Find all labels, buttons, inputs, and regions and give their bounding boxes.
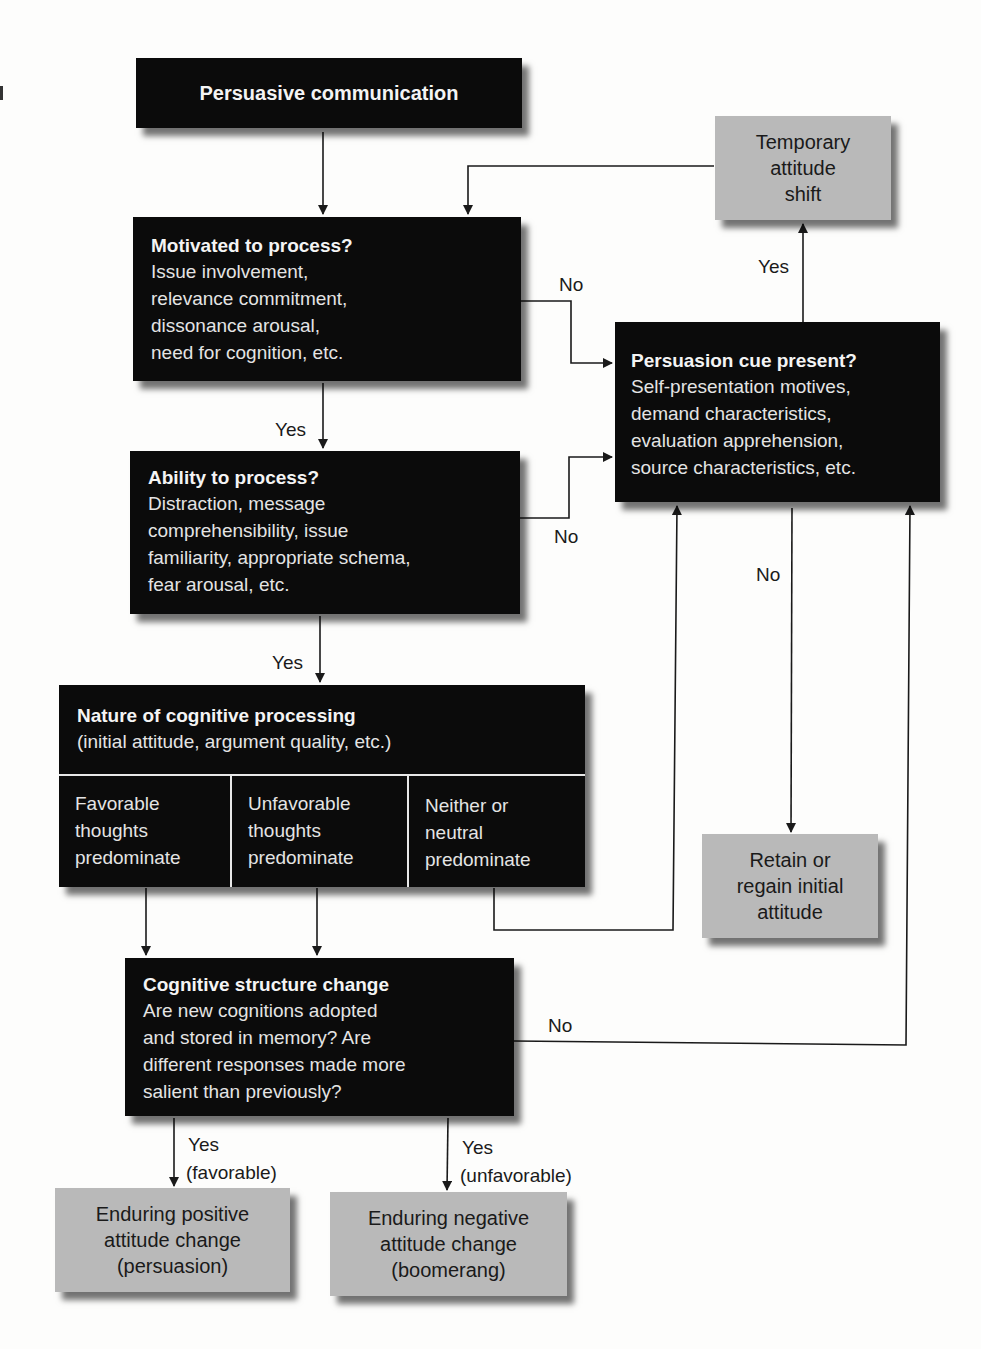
node-subtitle: (initial attitude, argument quality, etc… <box>77 728 391 755</box>
cell-text-line: Neither or <box>425 792 571 819</box>
node-text-line: need for cognition, etc. <box>151 339 521 366</box>
edge-label-change-yes-unfavorable: Yes <box>462 1137 493 1159</box>
node-text-line: fear arousal, etc. <box>148 571 520 598</box>
edge-label-ability-no: No <box>554 526 578 548</box>
cell-text-line: thoughts <box>75 817 217 844</box>
cell-neither: Neither or neutral predominate <box>409 776 585 887</box>
arrow-cue-no <box>791 508 792 832</box>
edge-label-change-no: No <box>548 1015 572 1037</box>
cell-favorable: Favorable thoughts predominate <box>59 776 231 887</box>
cell-text-line: predominate <box>75 844 217 871</box>
node-title: Persuasive communication <box>200 81 459 106</box>
arrow-motivated-no <box>520 301 612 363</box>
node-persuasion-cue-present: Persuasion cue present? Self-presentatio… <box>615 322 940 502</box>
node-text-line: attitude <box>770 155 836 181</box>
node-text-line: Issue involvement, <box>151 258 521 285</box>
node-title: Cognitive structure change <box>143 972 514 997</box>
node-text-line: dissonance arousal, <box>151 312 521 339</box>
node-text-line: Retain or <box>749 847 830 873</box>
edge-label-ability-yes: Yes <box>272 652 303 674</box>
node-nature-of-processing: Nature of cognitive processing (initial … <box>59 685 585 887</box>
node-text-line: comprehensibility, issue <box>148 517 520 544</box>
cell-text-line: Unfavorable <box>248 790 394 817</box>
node-text-line: and stored in memory? Are <box>143 1024 514 1051</box>
node-text-line: Enduring positive <box>96 1201 249 1227</box>
node-text-line: different responses made more <box>143 1051 514 1078</box>
node-persuasive-communication: Persuasive communication <box>136 58 522 128</box>
cell-text-line: neutral <box>425 819 571 846</box>
node-title: Motivated to process? <box>151 233 521 258</box>
arrow-change-yes-unfavorable <box>447 1118 448 1190</box>
edge-label-unfavorable: (unfavorable) <box>460 1165 572 1187</box>
node-text-line: regain initial <box>737 873 844 899</box>
cell-text-line: Favorable <box>75 790 217 817</box>
edge-label-cue-yes: Yes <box>758 256 789 278</box>
arrow-temporary-to-motivated <box>468 166 714 214</box>
node-text-line: attitude change <box>380 1231 517 1257</box>
node-text-line: shift <box>785 181 822 207</box>
node-title: Persuasion cue present? <box>631 348 940 373</box>
node-text-line: Are new cognitions adopted <box>143 997 514 1024</box>
node-text-line: Enduring negative <box>368 1205 529 1231</box>
node-temporary-attitude-shift: Temporary attitude shift <box>715 116 891 220</box>
edge-label-cue-no: No <box>756 564 780 586</box>
node-text-line: (boomerang) <box>391 1257 506 1283</box>
node-text-line: relevance commitment, <box>151 285 521 312</box>
node-text-line: demand characteristics, <box>631 400 940 427</box>
node-ability-to-process: Ability to process? Distraction, message… <box>130 451 520 614</box>
node-text-line: attitude change <box>104 1227 241 1253</box>
cell-text-line: thoughts <box>248 817 394 844</box>
node-text-line: Self-presentation motives, <box>631 373 940 400</box>
node-motivated-to-process: Motivated to process? Issue involvement,… <box>133 217 521 381</box>
node-title: Nature of cognitive processing <box>77 703 391 728</box>
edge-label-motivated-no: No <box>559 274 583 296</box>
node-text-line: Distraction, message <box>148 490 520 517</box>
node-text-line: salient than previously? <box>143 1078 514 1105</box>
diagram-canvas: Persuasive communication Motivated to pr… <box>0 0 981 1349</box>
cell-unfavorable: Unfavorable thoughts predominate <box>232 776 408 887</box>
node-title: Ability to process? <box>148 465 520 490</box>
node-text-line: Temporary <box>756 129 850 155</box>
cell-text-line: predominate <box>425 846 571 873</box>
node-enduring-positive-change: Enduring positive attitude change (persu… <box>55 1188 290 1292</box>
node-text-line: familiarity, appropriate schema, <box>148 544 520 571</box>
edge-label-favorable: (favorable) <box>186 1162 277 1184</box>
node-enduring-negative-change: Enduring negative attitude change (boome… <box>330 1192 567 1296</box>
node-text-line: attitude <box>757 899 823 925</box>
arrow-ability-no <box>520 457 612 518</box>
cell-text-line: predominate <box>248 844 394 871</box>
edge-label-change-yes-favorable: Yes <box>188 1134 219 1156</box>
node-cognitive-structure-change: Cognitive structure change Are new cogni… <box>125 958 514 1116</box>
node-text-line: evaluation apprehension, <box>631 427 940 454</box>
node-text-line: (persuasion) <box>117 1253 228 1279</box>
node-retain-initial-attitude: Retain or regain initial attitude <box>702 834 878 938</box>
node-text-line: source characteristics, etc. <box>631 454 940 481</box>
edge-label-motivated-yes: Yes <box>275 419 306 441</box>
